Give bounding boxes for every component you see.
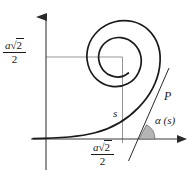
radicand-value: 2 <box>104 140 113 153</box>
radicand-value: 2 <box>16 38 25 51</box>
fraction-numerator: a√2 <box>91 142 114 154</box>
fraction-denominator: 2 <box>91 155 114 167</box>
fraction-y-value: a√2 2 <box>3 40 26 65</box>
cornu-spiral-curve <box>33 21 160 139</box>
tangent-angle-label: α (s) <box>155 115 175 126</box>
arc-length-label: s <box>113 108 117 119</box>
x-axis-value-label: a√2 2 <box>91 142 114 167</box>
cornu-spiral-figure: a√2 2 a√2 2 s P α (s) <box>0 0 196 176</box>
fraction-numerator: a√2 <box>3 40 26 52</box>
point-p-label: P <box>164 90 171 102</box>
fraction-x-value: a√2 2 <box>91 142 114 167</box>
y-axis-value-label: a√2 2 <box>3 40 26 65</box>
fraction-denominator: 2 <box>3 53 26 65</box>
